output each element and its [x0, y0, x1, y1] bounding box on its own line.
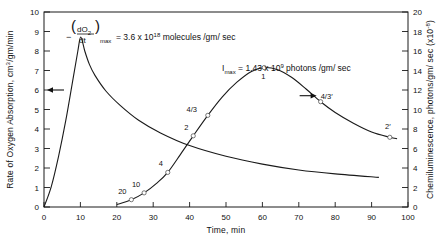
- y-tick-label: 8: [35, 47, 40, 56]
- y2-tick-label: 2: [413, 184, 418, 193]
- x-tick-label: 40: [185, 213, 194, 222]
- x-tick-label: 70: [294, 213, 303, 222]
- y2-tick-label: 0: [413, 203, 418, 212]
- y2-tick-label: 8: [413, 125, 418, 134]
- y-axis-title: Rate of Oxygen Absorption, cm3/gm/min: [5, 30, 15, 189]
- data-point-marker: [129, 198, 133, 202]
- y2-tick-label: 12: [413, 86, 422, 95]
- data-point-label: 4: [159, 159, 163, 168]
- x-tick-label: 90: [367, 213, 376, 222]
- data-point-marker: [206, 113, 210, 117]
- data-point-marker: [142, 191, 146, 195]
- y2-tick-label: 4: [413, 164, 418, 173]
- data-point-marker: [388, 135, 392, 139]
- svg-text:dt: dt: [79, 36, 86, 45]
- x-tick-label: 10: [76, 213, 85, 222]
- y-tick-label: 10: [30, 8, 39, 17]
- y2-tick-label: 16: [413, 47, 422, 56]
- y-tick-label: 5: [35, 106, 40, 115]
- data-point-marker: [191, 134, 195, 138]
- x-tick-label: 60: [258, 213, 267, 222]
- svg-text:= 3.6 x 1018 molecules /gm/ s: = 3.6 x 1018 molecules /gm/ sec: [116, 32, 236, 42]
- y-tick-label: 9: [35, 28, 40, 37]
- x-tick-label: 50: [222, 213, 231, 222]
- svg-text:): ): [95, 17, 100, 34]
- y-tick-label: 6: [35, 86, 40, 95]
- y2-tick-label: 6: [413, 145, 418, 154]
- data-point-label: 20: [118, 187, 126, 196]
- y2-tick-label: 18: [413, 28, 422, 37]
- data-point-label: 2′: [385, 122, 391, 131]
- data-point-label: 10: [132, 180, 140, 189]
- series-chemiluminescence: [117, 67, 397, 204]
- y-tick-label: 3: [35, 145, 40, 154]
- y-tick-label: 1: [35, 184, 40, 193]
- x-tick-label: 20: [112, 213, 121, 222]
- data-point-label: 4/3: [187, 105, 197, 114]
- annotation-oxygen-rate-max: −(dO2dt)max= 3.6 x 1018 molecules /gm/ s…: [66, 17, 236, 45]
- chart-figure: 0102030405060708090100Time, min012345678…: [0, 0, 441, 249]
- data-point-marker: [166, 170, 170, 174]
- y2-tick-label: 14: [413, 67, 422, 76]
- x-tick-label: 100: [401, 213, 415, 222]
- svg-text:max: max: [100, 38, 111, 44]
- svg-text:Imax = 1.43 x 109 photons /gm: Imax = 1.43 x 109 photons /gm/ sec: [222, 63, 352, 75]
- y2-tick-label: 10: [413, 106, 422, 115]
- y2-tick-label: 20: [413, 8, 422, 17]
- dual-axis-line-chart: 0102030405060708090100Time, min012345678…: [0, 0, 441, 249]
- y2-axis-title: Chemiluminescence, photons/gm/ sec (x10-…: [425, 20, 435, 199]
- x-axis-title: Time, min: [207, 225, 246, 235]
- y-tick-label: 4: [35, 125, 40, 134]
- axis-direction-arrow-right: [300, 93, 317, 99]
- x-tick-label: 0: [42, 213, 47, 222]
- axis-direction-arrow-left: [47, 87, 64, 93]
- data-point-label: 2: [184, 123, 188, 132]
- y-tick-label: 2: [35, 164, 40, 173]
- y-tick-label: 0: [35, 203, 40, 212]
- data-point-label: 4/3′: [321, 92, 333, 101]
- y-tick-label: 7: [35, 67, 40, 76]
- x-tick-label: 30: [149, 213, 158, 222]
- annotation-imax: Imax = 1.43 x 109 photons /gm/ sec: [222, 63, 352, 75]
- svg-text:(: (: [71, 17, 76, 34]
- x-tick-label: 80: [331, 213, 340, 222]
